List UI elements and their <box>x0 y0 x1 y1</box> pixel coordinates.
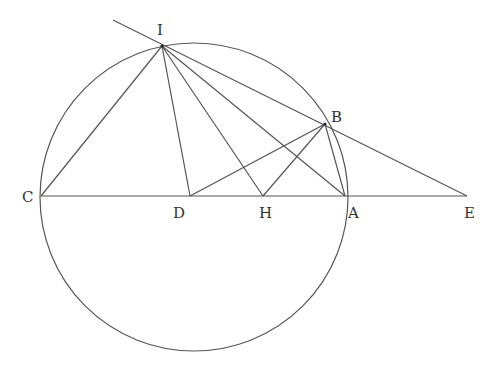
line-I-H <box>162 46 263 196</box>
line-I-A <box>162 46 345 196</box>
point-label-A: A <box>347 204 359 222</box>
point-label-H: H <box>259 204 272 222</box>
point-label-E: E <box>464 204 475 222</box>
point-dot-B <box>323 122 326 125</box>
point-label-D: D <box>173 204 185 222</box>
geometry-diagram: I B C D H A E <box>0 0 501 375</box>
line-I-E-extended <box>113 20 467 196</box>
point-label-I: I <box>157 21 163 39</box>
point-dot-I <box>160 44 163 47</box>
line-B-H <box>263 124 325 196</box>
circle <box>40 43 348 351</box>
diagram-labels: I B C D H A E <box>22 21 475 222</box>
line-I-D <box>162 46 190 196</box>
line-I-C <box>41 46 162 196</box>
point-label-B: B <box>331 108 342 126</box>
point-label-C: C <box>22 188 33 206</box>
line-B-D <box>190 124 325 196</box>
diagram-shapes <box>40 20 467 351</box>
